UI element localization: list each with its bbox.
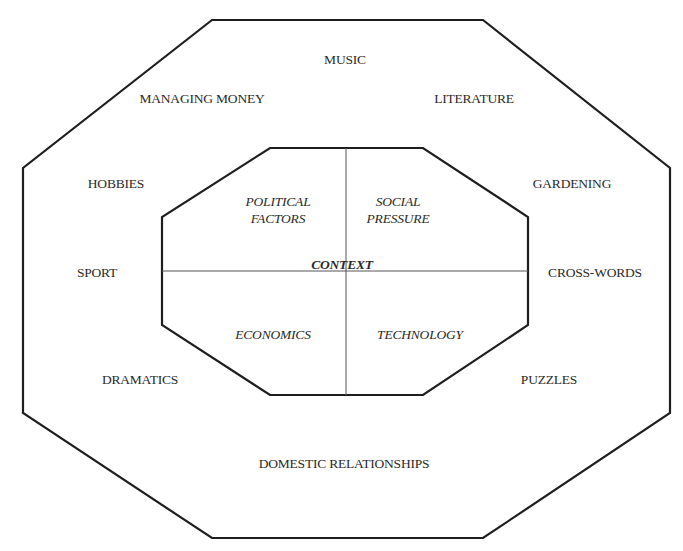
quadrant-political-factors: POLITICAL FACTORS bbox=[246, 193, 311, 227]
label-puzzles: PUZZLES bbox=[521, 371, 577, 388]
label-domestic-relationships: DOMESTIC RELATIONSHIPS bbox=[259, 455, 430, 472]
quadrant-social-pressure: SOCIAL PRESSURE bbox=[367, 193, 430, 227]
quadrant-economics: ECONOMICS bbox=[235, 326, 310, 343]
label-sport: SPORT bbox=[77, 264, 117, 281]
quadrant-line: SOCIAL bbox=[367, 193, 430, 210]
quadrant-technology: TECHNOLOGY bbox=[377, 326, 463, 343]
quadrant-line: POLITICAL bbox=[246, 193, 311, 210]
center-label-context: CONTEXT bbox=[311, 256, 373, 273]
quadrant-line: PRESSURE bbox=[367, 210, 430, 227]
label-dramatics: DRAMATICS bbox=[102, 371, 178, 388]
label-gardening: GARDENING bbox=[533, 175, 611, 192]
label-cross-words: CROSS-WORDS bbox=[548, 264, 642, 281]
label-literature: LITERATURE bbox=[434, 90, 514, 107]
label-hobbies: HOBBIES bbox=[88, 175, 144, 192]
label-music: MUSIC bbox=[324, 51, 366, 68]
label-managing-money: MANAGING MONEY bbox=[139, 90, 264, 107]
quadrant-line: FACTORS bbox=[246, 210, 311, 227]
